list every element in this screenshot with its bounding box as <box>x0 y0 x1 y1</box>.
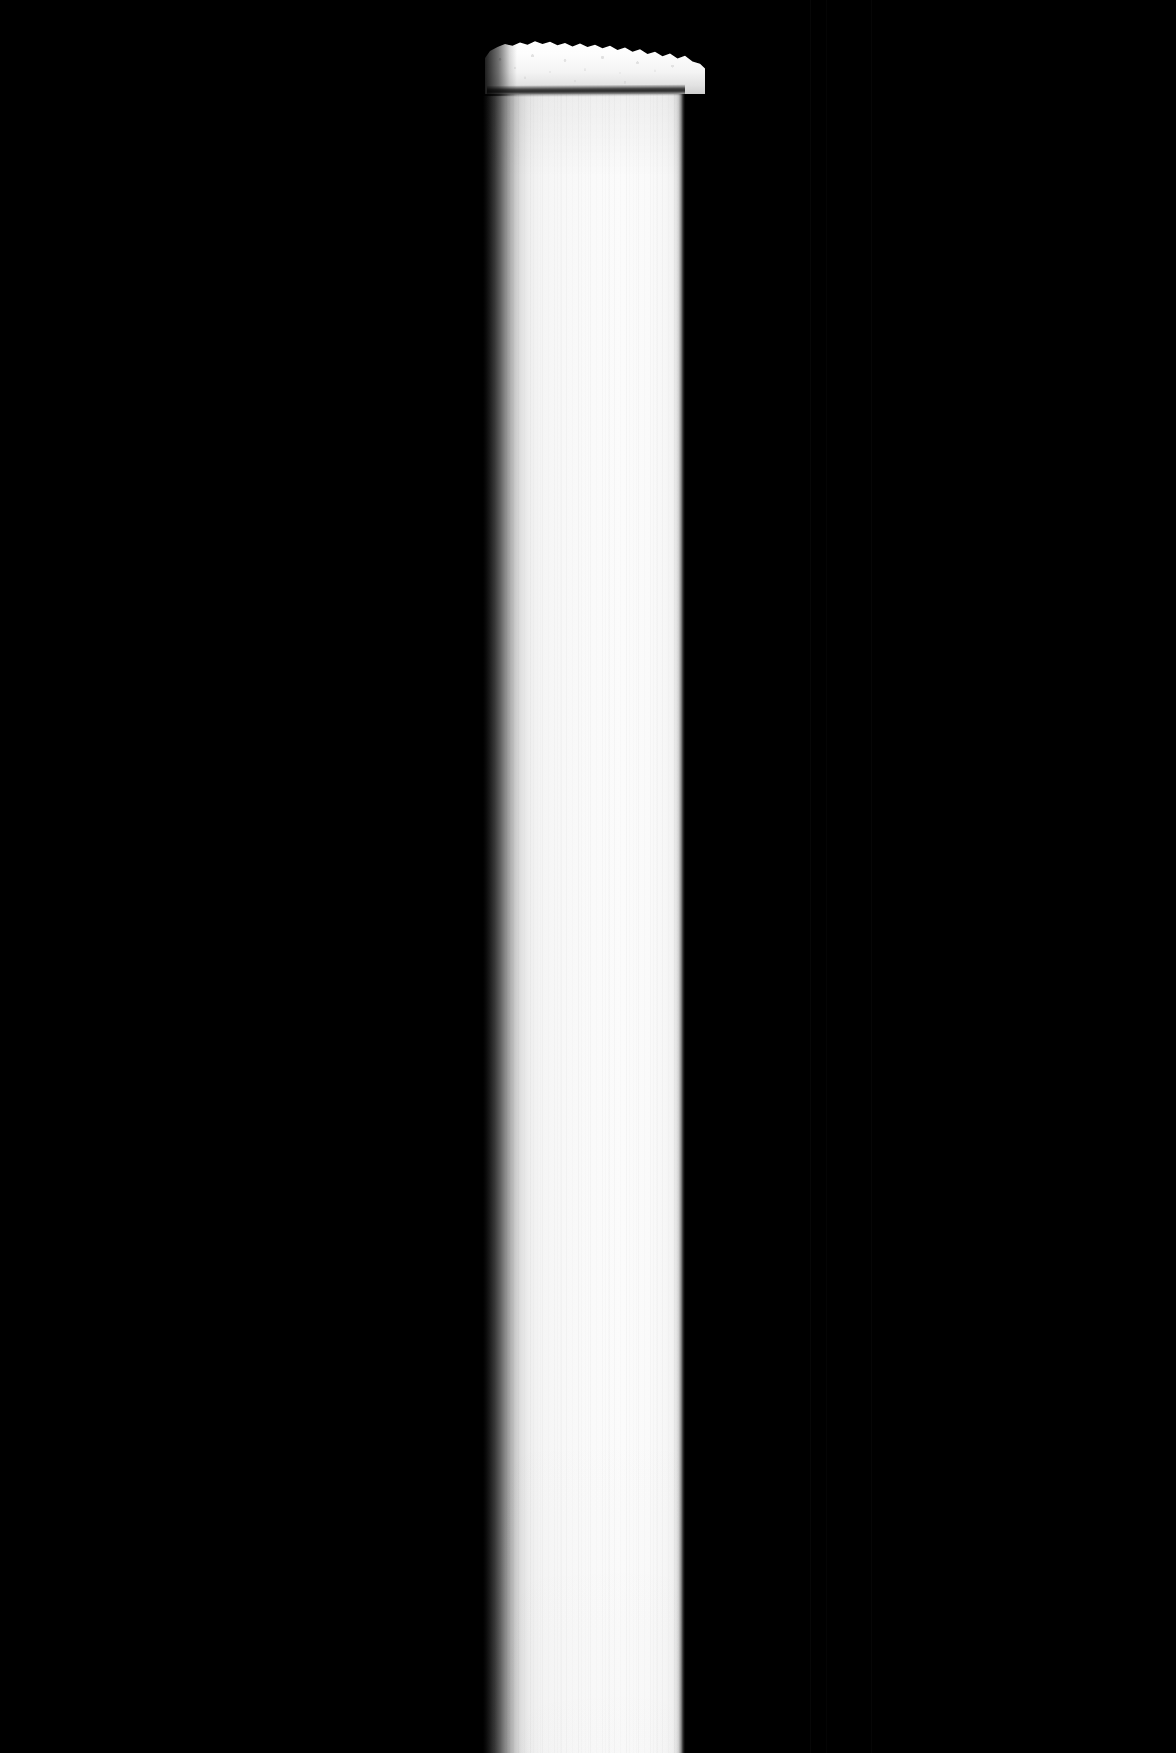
seam-line-artifact <box>871 0 872 1753</box>
seam-line-artifact <box>826 0 827 1753</box>
column-vertical-shading <box>483 88 685 1753</box>
image-canvas <box>0 0 1176 1753</box>
seam-line-artifact <box>810 0 811 1753</box>
column-striations <box>483 88 685 1753</box>
dark-separation-band <box>487 85 685 97</box>
column-striations-coarse <box>483 88 685 1753</box>
vertical-column <box>483 88 685 1753</box>
